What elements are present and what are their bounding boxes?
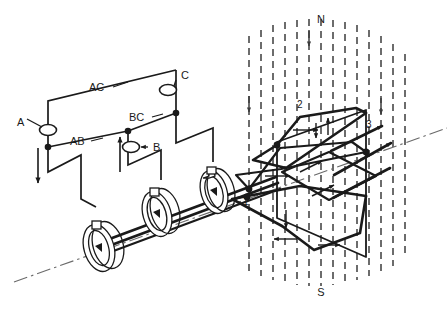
label-phase-a: A [17,116,25,128]
terminal-a-icon [40,125,57,136]
south-pole-label: S [317,286,324,298]
diagram-canvas: N S [0,0,447,310]
junction-dot-icon [125,128,132,135]
coil-3-label: 3 [366,119,372,130]
coil-2-label: 2 [297,99,303,110]
terminal-b-icon [123,142,140,153]
junction-dot-icon [45,144,52,151]
label-phase-ac: AC [89,81,104,93]
label-phase-b: B [153,141,160,153]
junction-dot-icon [274,142,281,149]
north-pole-label: N [317,13,325,25]
junction-dot-icon [363,149,370,156]
label-phase-c: C [181,69,189,81]
junction-dot-icon [173,110,180,117]
alternator-diagram: N S [0,0,447,310]
label-phase-bc: BC [129,111,144,123]
terminal-c-icon [160,85,177,96]
label-phase-ab: AB [70,135,85,147]
